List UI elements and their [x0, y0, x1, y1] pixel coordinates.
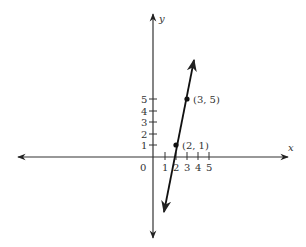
point-2-1	[173, 142, 178, 147]
point-label-3-5: (3, 5)	[193, 94, 220, 105]
y-tick-label: 5	[141, 94, 147, 105]
y-tick-label: 2	[141, 129, 147, 140]
linear-function-line	[164, 60, 194, 212]
origin-label: 0	[140, 162, 146, 173]
x-tick-label: 5	[206, 162, 212, 173]
point-3-5	[184, 96, 189, 101]
x-tick-label: 3	[184, 162, 190, 173]
point-label-2-1: (2, 1)	[182, 140, 209, 151]
x-ticks	[165, 152, 209, 160]
y-axis-label: y	[158, 13, 165, 24]
coordinate-plane: x y 0 1 2 3 4 5 1 2 3 4 5 (2, 1) (3, 5)	[0, 0, 306, 247]
y-tick-label: 1	[141, 140, 147, 151]
y-tick-label: 3	[141, 117, 147, 128]
x-axis-label: x	[288, 142, 294, 153]
x-tick-label: 4	[195, 162, 201, 173]
x-tick-label: 1	[162, 162, 168, 173]
y-tick-label: 4	[141, 106, 147, 117]
